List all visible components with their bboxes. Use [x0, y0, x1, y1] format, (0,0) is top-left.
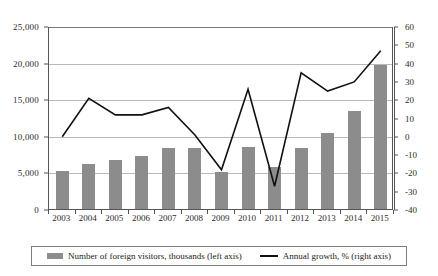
x-axis-tick-mark — [393, 210, 394, 214]
x-axis-tick-label: 2005 — [105, 213, 123, 223]
right-axis-tick-mark — [394, 155, 398, 156]
right-axis-tick-label: 40 — [405, 59, 414, 69]
right-axis-tick-label: 60 — [405, 22, 414, 32]
legend-label-visitors: Number of foreign visitors, thousands (l… — [68, 251, 242, 261]
x-axis-tick-label: 2012 — [291, 213, 309, 223]
right-axis-tick-labels: -40-30-20-100102030405060 — [398, 27, 438, 210]
right-axis-tick-mark — [394, 63, 398, 64]
right-axis-tick-label: -40 — [405, 205, 417, 215]
right-axis-tick-label: -30 — [405, 187, 417, 197]
x-axis-tick-label: 2009 — [212, 213, 230, 223]
combo-chart: 05,00010,00015,00020,00025,000 -40-30-20… — [0, 0, 438, 276]
right-axis-tick-mark — [394, 136, 398, 137]
right-axis-tick-mark — [394, 45, 398, 46]
right-axis-tick-label: -20 — [405, 168, 417, 178]
right-axis-tick-mark — [394, 173, 398, 174]
left-axis-tick-label: 10,000 — [13, 132, 39, 142]
legend-label-growth: Annual growth, % (right axis) — [283, 251, 391, 261]
left-axis-tick-label: 0 — [34, 205, 39, 215]
line-series — [49, 27, 394, 210]
plot-area — [48, 27, 393, 210]
x-axis-tick-label: 2014 — [344, 213, 362, 223]
annual-growth-polyline — [62, 51, 380, 186]
x-axis-tick-labels: 2003200420052006200720082009201020112012… — [48, 213, 393, 229]
left-axis-tick-label: 5,000 — [18, 168, 39, 178]
legend-item-visitors: Number of foreign visitors, thousands (l… — [47, 251, 242, 261]
right-axis-tick-label: 20 — [405, 95, 414, 105]
left-axis-tick-label: 20,000 — [13, 59, 39, 69]
x-axis-tick-label: 2006 — [132, 213, 150, 223]
left-axis-tick-label: 25,000 — [13, 22, 39, 32]
chart-legend: Number of foreign visitors, thousands (l… — [31, 246, 407, 266]
right-axis-tick-label: 0 — [405, 132, 410, 142]
x-axis-tick-label: 2015 — [371, 213, 389, 223]
left-axis-tick-labels: 05,00010,00015,00020,00025,000 — [0, 27, 44, 210]
x-axis-tick-label: 2007 — [158, 213, 176, 223]
right-axis-tick-label: 50 — [405, 40, 414, 50]
x-axis-tick-label: 2004 — [79, 213, 97, 223]
bar-swatch-icon — [47, 253, 63, 259]
right-axis-tick-mark — [394, 210, 398, 211]
right-axis-tick-mark — [394, 27, 398, 28]
right-axis-tick-label: 30 — [405, 77, 414, 87]
right-axis-tick-label: -10 — [405, 150, 417, 160]
x-axis-tick-label: 2011 — [265, 213, 283, 223]
x-axis-tick-label: 2003 — [52, 213, 70, 223]
right-axis-tick-mark — [394, 100, 398, 101]
legend-item-growth: Annual growth, % (right axis) — [260, 251, 391, 261]
x-axis-tick-label: 2010 — [238, 213, 256, 223]
line-swatch-icon — [260, 255, 278, 257]
right-axis-tick-mark — [394, 81, 398, 82]
x-axis-tick-label: 2013 — [318, 213, 336, 223]
left-axis-tick-label: 15,000 — [13, 95, 39, 105]
right-axis-tick-mark — [394, 118, 398, 119]
right-axis-tick-mark — [394, 191, 398, 192]
right-axis-tick-label: 10 — [405, 114, 414, 124]
x-axis-tick-label: 2008 — [185, 213, 203, 223]
